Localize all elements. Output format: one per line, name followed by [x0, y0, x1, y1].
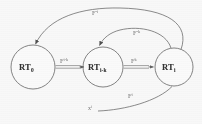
edge-arc-rti-to-rt0 [36, 8, 183, 50]
edge-label-upper-inner: F-k [133, 29, 140, 36]
edge-label-left-middle: Fi-k [60, 57, 68, 64]
diagram-canvas: RT0 RTi-k RTi F-i F-k Fi-k Fk Fi xi [0, 0, 202, 124]
source-label-x: xi [88, 105, 92, 111]
node-label-rt-i-k: RTi-k [88, 62, 106, 72]
edge-label-top-outer: F-i [92, 9, 98, 16]
edge-arc-x-to-rti [98, 87, 172, 112]
edge-rtik-to-rti [124, 66, 154, 69]
edge-rt0-to-rtik [56, 66, 85, 69]
edge-label-bottom: Fi [128, 92, 133, 99]
node-label-rt-i: RTi [162, 62, 175, 72]
edge-label-right-middle: Fk [131, 57, 137, 64]
node-label-rt0: RT0 [19, 62, 34, 72]
